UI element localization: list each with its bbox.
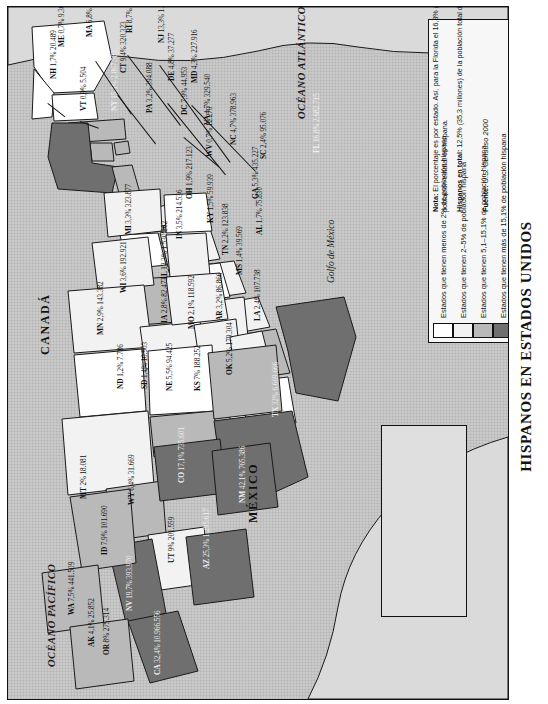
state-OH bbox=[164, 193, 212, 233]
state-pct-in: 3,5% bbox=[176, 214, 184, 229]
state-count-mt: 18.081 bbox=[80, 455, 88, 475]
state-count-md: 227.916 bbox=[191, 29, 199, 52]
state-code-nh: NH bbox=[50, 68, 58, 79]
state-label-ne: NE5,5%94.425 bbox=[166, 343, 174, 391]
state-pct-fl: 16,8% bbox=[313, 123, 321, 142]
state-label-md: MD4,3%227.916 bbox=[191, 29, 199, 83]
state-code-fl: FL bbox=[313, 144, 321, 153]
state-label-dc: DC7,9%44.953 bbox=[181, 67, 189, 115]
state-SD bbox=[148, 345, 216, 415]
state-count-ar: 86.866 bbox=[216, 273, 224, 293]
state-code-sd: SD bbox=[141, 380, 149, 389]
state-code-ca: CA bbox=[154, 664, 162, 675]
state-pct-ga: 5,3% bbox=[252, 171, 260, 186]
state-pct-tx: 32% bbox=[272, 392, 280, 405]
state-pct-oh: 1,9% bbox=[186, 171, 194, 186]
state-label-ri: RI8,7%90.820 bbox=[126, 6, 134, 33]
legend-source: Fuente: U.S. Censuso 2000 bbox=[481, 119, 490, 212]
state-label-az: AZ25,3%1.295.617 bbox=[203, 508, 211, 569]
state-code-nd: ND bbox=[117, 378, 125, 389]
state-pct-ut: 9% bbox=[168, 542, 176, 552]
state-code-tx: TX bbox=[272, 407, 280, 417]
state-count-dc: 44.953 bbox=[181, 67, 189, 87]
state-label-ks: KS7%188.252 bbox=[194, 345, 202, 391]
state-pct-de: 4,8% bbox=[168, 54, 176, 69]
state-MN bbox=[68, 285, 152, 353]
state-code-wy: WY bbox=[128, 492, 136, 505]
state-code-mo: MO bbox=[188, 316, 196, 329]
state-code-ky: KY bbox=[207, 212, 215, 223]
state-count-ri: 90.820 bbox=[126, 6, 134, 7]
state-code-nj: NJ bbox=[158, 34, 166, 43]
state-label-la: LA2,4%107.738 bbox=[254, 269, 262, 321]
state-IN bbox=[166, 233, 210, 277]
state-label-wi: WI3,6%192.921 bbox=[120, 241, 128, 293]
state-pct-ct: 9,4% bbox=[120, 46, 128, 61]
state-pct-wy: 6,4% bbox=[128, 476, 136, 491]
state-MT bbox=[62, 411, 154, 495]
state-pct-sd: 1,4% bbox=[141, 363, 149, 378]
state-count-va: 329.540 bbox=[204, 74, 212, 97]
state-code-ga: GA bbox=[252, 188, 260, 199]
state-pct-id: 7,9% bbox=[101, 530, 109, 545]
label-ocean-atlantic-line1: OCÉANO ATLÁNTICO bbox=[296, 6, 307, 119]
state-code-tn: TN bbox=[222, 245, 230, 255]
state-code-me: ME bbox=[58, 35, 66, 47]
state-count-tn: 123.838 bbox=[222, 203, 230, 226]
state-pct-la: 2,4% bbox=[254, 294, 262, 309]
state-pct-mo: 2,1% bbox=[188, 300, 196, 315]
state-label-ky: KY1,5%59.939 bbox=[207, 174, 215, 223]
legend-note: Nota: El porcentaje es por estado. Así, … bbox=[431, 6, 449, 212]
page-title-text: HISPANOS EN ESTADOS UNIDOS bbox=[518, 221, 535, 472]
state-count-il: 1.530.262 bbox=[161, 221, 169, 250]
legend-box: Estados que tienen menos de 2% de poblac… bbox=[428, 19, 509, 343]
state-label-mo: MO2,1%118.592 bbox=[188, 275, 196, 329]
state-count-co: 735.601 bbox=[178, 427, 186, 450]
state-pct-il: 12,3% bbox=[161, 251, 169, 270]
state-count-nc: 378.963 bbox=[230, 93, 238, 116]
legend-total-label: Hispanos en total: bbox=[455, 150, 464, 212]
inset-hawaii bbox=[381, 425, 467, 617]
state-count-ut: 201.559 bbox=[168, 517, 176, 540]
legend-swatch-lt2 bbox=[433, 323, 453, 338]
state-code-ar: AR bbox=[216, 310, 224, 321]
state-label-wy: WY6,4%31.669 bbox=[128, 455, 136, 505]
state-AZ bbox=[186, 529, 254, 605]
legend-inner: Estados que tienen menos de 2% de poblac… bbox=[429, 20, 509, 342]
state-label-co: CO17,1%735.601 bbox=[178, 427, 186, 483]
state-code-co: CO bbox=[178, 472, 186, 483]
state-code-nc: NC bbox=[230, 134, 238, 145]
state-code-sc: SC bbox=[260, 150, 268, 159]
legend-note-label: Nota: bbox=[431, 194, 440, 212]
state-pct-nd: 1,2% bbox=[117, 362, 125, 377]
state-label-nj: NJ13,3%1.117.191 bbox=[158, 6, 166, 43]
state-ND bbox=[74, 349, 146, 417]
state-code-ms: MS bbox=[236, 264, 244, 275]
label-canada: CANADÁ bbox=[38, 293, 53, 355]
state-label-ny: NY15,1%2.867.583 bbox=[111, 50, 119, 111]
state-label-ia: IA2,8%82.473 bbox=[161, 277, 169, 323]
state-code-mt: MT bbox=[80, 487, 88, 499]
state-pct-ca: 32,4% bbox=[154, 644, 162, 663]
state-count-ma: 428.729 bbox=[86, 6, 94, 7]
legend-source-text: U.S. Censuso 2000 bbox=[481, 119, 490, 183]
state-count-wi: 192.921 bbox=[120, 241, 128, 264]
state-label-nc: NC4,7%378.963 bbox=[230, 93, 238, 145]
legend-total: Hispanos en total: 12,5% (35,3 millones)… bbox=[455, 6, 464, 212]
state-code-ma: MA bbox=[86, 25, 94, 37]
state-count-ky: 59.939 bbox=[207, 174, 215, 194]
state-label-tn: TN2,2%123.838 bbox=[222, 203, 230, 255]
state-code-oh: OH bbox=[186, 188, 194, 200]
map-frame: WA7,5%441.509OR8%275.314CA32,4%10.966.55… bbox=[7, 6, 509, 700]
legend-source-label: Fuente: bbox=[481, 185, 490, 212]
state-code-vt: VT bbox=[80, 101, 88, 111]
state-code-il: IL bbox=[161, 271, 169, 279]
state-pct-vt: 0,9% bbox=[80, 84, 88, 99]
state-pct-ia: 2,8% bbox=[161, 298, 169, 313]
label-mexico: MÉXICO bbox=[246, 463, 261, 523]
state-code-wi: WI bbox=[120, 283, 128, 293]
state-label-de: DE4,8%37.277 bbox=[168, 33, 176, 81]
state-pct-ma: 6,8% bbox=[86, 8, 94, 23]
state-code-ne: NE bbox=[166, 381, 174, 391]
map-page: WA7,5%441.509OR8%275.314CA32,4%10.966.55… bbox=[0, 0, 548, 704]
